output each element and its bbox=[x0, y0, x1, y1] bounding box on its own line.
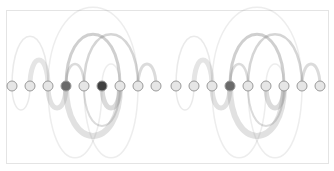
diagram-node bbox=[43, 81, 53, 91]
arcs-layer bbox=[12, 7, 320, 158]
diagram-node bbox=[207, 81, 217, 91]
diagram-node bbox=[97, 81, 107, 91]
diagram-node bbox=[189, 81, 199, 91]
diagram-node bbox=[133, 81, 143, 91]
diagram-node bbox=[25, 81, 35, 91]
arc-below bbox=[230, 86, 284, 136]
diagram-node bbox=[243, 81, 253, 91]
diagram-node bbox=[151, 81, 161, 91]
diagram-node bbox=[297, 81, 307, 91]
arc-above bbox=[248, 34, 302, 86]
diagram-node bbox=[7, 81, 17, 91]
arc-above bbox=[230, 34, 284, 86]
diagram-node bbox=[261, 81, 271, 91]
diagram-node bbox=[315, 81, 325, 91]
diagram-node bbox=[225, 81, 235, 91]
diagram-node bbox=[115, 81, 125, 91]
arc-above bbox=[84, 34, 138, 86]
diagram-node bbox=[79, 81, 89, 91]
arc-below bbox=[66, 86, 120, 136]
arc-diagram bbox=[0, 0, 334, 171]
diagram-node bbox=[171, 81, 181, 91]
diagram-node bbox=[279, 81, 289, 91]
diagram-node bbox=[61, 81, 71, 91]
arc-above bbox=[66, 34, 120, 86]
nodes-layer bbox=[7, 81, 325, 91]
